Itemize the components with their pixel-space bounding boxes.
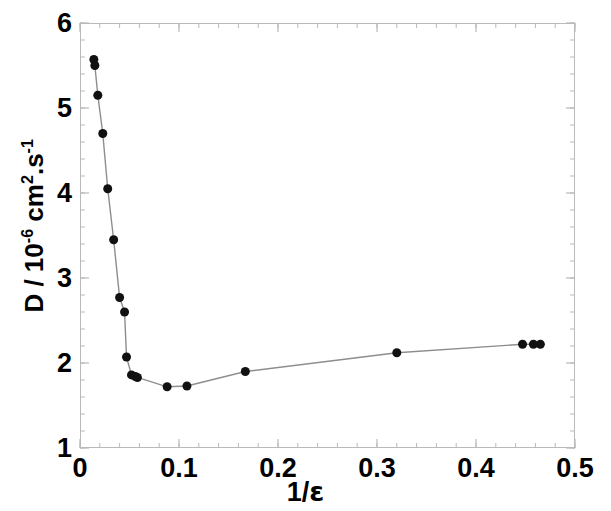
y-axis-title: D / 10-6 cm2.s-1 xyxy=(19,6,47,446)
y-axis-text: D / 10 xyxy=(19,243,49,312)
epsilon-symbol: ε xyxy=(309,476,324,507)
diffusion-coefficient-chart: 123456 00.10.20.30.40.5 D / 10-6 cm2.s-1… xyxy=(0,0,611,511)
y-axis-exponent: -1 xyxy=(18,139,36,153)
plot-area-frame xyxy=(80,23,575,448)
y-axis-exponent: -6 xyxy=(18,229,36,243)
x-axis-title: 1/ε xyxy=(0,478,611,506)
y-axis-text: .s xyxy=(19,153,49,175)
x-axis-numerator: 1/ xyxy=(287,477,310,507)
y-axis-exponent: 2 xyxy=(18,175,36,184)
y-axis-text: cm xyxy=(19,184,49,229)
